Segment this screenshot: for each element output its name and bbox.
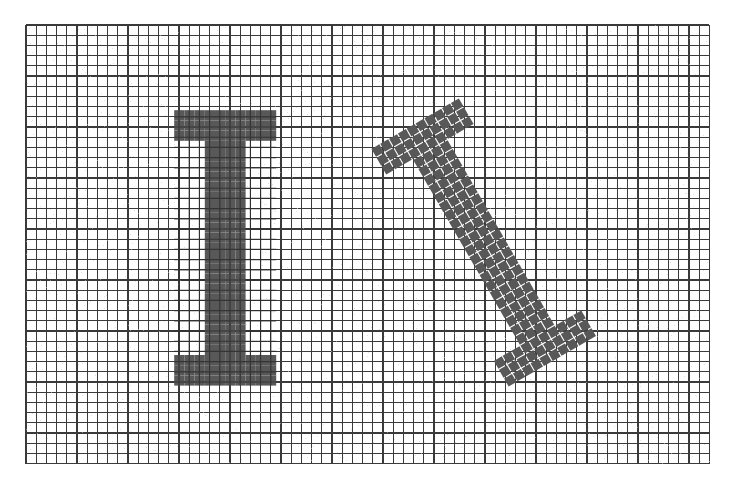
rotated-letter-i	[371, 98, 596, 386]
figure-canvas	[0, 0, 751, 487]
pixel-shapes-layer	[0, 0, 751, 487]
